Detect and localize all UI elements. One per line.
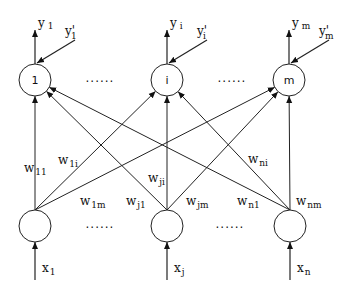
weight-label: wn1 [237,194,260,210]
output-label: y1 [37,16,54,31]
weight-label: wjm [186,194,209,210]
target-arrow [291,40,329,63]
weight-label: wj1 [126,194,146,210]
connection-line [46,91,167,210]
connection-line [289,96,290,210]
diagram-canvas: 1im y1y'1yiy'iymy'mx1xjxn...............… [0,0,357,292]
output-node-label: 1 [32,74,39,87]
ellipsis: ...... [218,71,247,85]
output-node-label: i [165,74,168,87]
input-label: x1 [42,261,56,277]
connection-line [35,91,156,210]
output-node-label: m [284,74,295,87]
ellipsis: ...... [86,217,115,231]
weight-label: wnm [296,194,322,210]
input-label: xj [174,261,185,277]
weight-label: w1m [80,194,106,210]
input-node [274,210,306,242]
connection-line [35,87,275,210]
input-node [19,210,51,242]
weight-label: w1i [58,153,78,169]
target-arrow [169,40,207,63]
output-label: yi [169,16,183,31]
weight-label: wji [148,171,165,187]
connection-line [178,92,290,210]
input-arrows [35,242,290,280]
target-label: y'i [196,24,207,41]
weight-connections [35,87,290,210]
connection-line [167,92,278,210]
weight-label: wni [248,152,268,168]
output-arrows [35,30,329,64]
ellipsis: ...... [86,71,115,85]
input-label: xn [297,261,311,277]
neural-network-diagram: 1im y1y'1yiy'iymy'mx1xjxn...............… [0,0,357,292]
connection-line [49,87,290,210]
output-label: ym [291,16,311,31]
ellipsis: ...... [216,217,245,231]
target-arrow [37,40,75,63]
target-label: y'm [318,24,334,41]
target-label: y'1 [64,24,77,41]
input-node [151,210,183,242]
